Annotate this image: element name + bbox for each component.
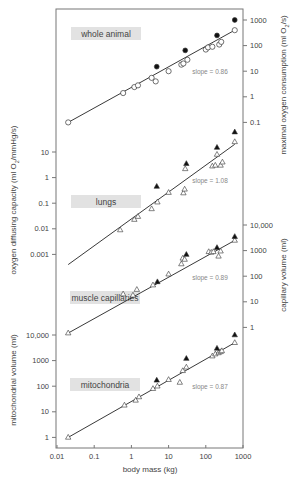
lungs-filled-point <box>184 161 189 166</box>
lungs-y-tick-label: 0.01 <box>34 224 49 233</box>
whole-animal-filled-point <box>154 64 159 69</box>
muscle-capillaries-filled-point <box>214 245 219 250</box>
whole-animal-open-point <box>121 90 126 95</box>
whole-animal-open-point <box>219 39 224 44</box>
mitochondria-panel-label: mitochondria <box>81 380 130 390</box>
muscle-capillaries-open-point <box>179 261 184 266</box>
muscle-capillaries-y-tick-label: 10,000 <box>250 221 273 230</box>
mitochondria-y-tick-label: 1 <box>45 433 49 442</box>
whole-animal-open-point <box>232 28 237 33</box>
whole-animal-y-tick-label: 10 <box>250 67 258 76</box>
whole-animal-y-tick-label: 1000 <box>250 16 267 25</box>
muscle-capillaries-panel-label: muscle capillaries <box>71 293 138 303</box>
muscle-capillaries-open-point <box>166 271 171 276</box>
muscle-capillaries-y-tick-label: 10 <box>250 297 258 306</box>
x-axis-label: body mass (kg) <box>123 465 178 474</box>
muscle-capillaries-filled-point <box>232 234 237 239</box>
whole-animal-open-point <box>185 57 190 62</box>
mitochondria-filled-point <box>232 332 237 337</box>
whole-animal-open-point <box>66 120 71 125</box>
whole-animal-open-point <box>166 69 171 74</box>
mitochondria-y-tick-label: 10 <box>41 407 49 416</box>
x-tick-label: 100 <box>200 452 213 461</box>
lungs-open-point <box>149 206 154 211</box>
lungs-open-point <box>214 151 219 156</box>
lungs-open-point <box>220 159 225 164</box>
mitochondria-y-axis-label: mitochondrial volume (ml) <box>9 334 18 426</box>
mitochondria-open-point <box>184 364 189 369</box>
muscle-capillaries-y-tick-label: 100 <box>250 272 263 281</box>
whole-animal-panel-label: whole animal <box>80 29 131 39</box>
lungs-filled-point <box>154 183 159 188</box>
lungs-y-axis-label: oxygen diffusing capacity (ml O2/mmHg/s) <box>9 125 20 274</box>
lungs-filled-point <box>214 144 219 149</box>
muscle-capillaries-open-point <box>216 253 221 258</box>
mitochondria-open-point <box>177 379 182 384</box>
mitochondria-y-tick-label: 10,000 <box>26 331 49 340</box>
muscle-capillaries-y-tick-label: 1 <box>250 323 254 332</box>
muscle-capillaries-filled-point <box>184 252 189 257</box>
lungs-slope-label: slope = 1.08 <box>192 177 228 185</box>
whole-animal-filled-point <box>232 18 237 23</box>
whole-animal-open-point <box>153 79 158 84</box>
lungs-panel-label: lungs <box>96 197 116 207</box>
lungs-y-tick-label: 10 <box>41 148 49 157</box>
whole-animal-open-point <box>135 83 140 88</box>
mitochondria-y-tick-label: 1000 <box>32 356 49 365</box>
x-tick-label: 10 <box>164 452 172 461</box>
mitochondria-slope-label: slope = 0.87 <box>192 383 228 391</box>
x-tick-label: 1000 <box>235 452 252 461</box>
muscle-capillaries-open-point <box>134 287 139 292</box>
mitochondria-filled-point <box>184 356 189 361</box>
whole-animal-y-axis-label: maximal oxygen consumption (ml O2/s) <box>279 15 290 154</box>
lungs-open-point <box>232 139 237 144</box>
lungs-open-point <box>182 186 187 191</box>
allometry-chart: 0.010.11101001000body mass (kg)100010010… <box>0 0 299 483</box>
whole-animal-filled-point <box>215 33 220 38</box>
mitochondria-filled-point <box>154 377 159 382</box>
mitochondria-filled-point <box>214 345 219 350</box>
x-tick-label: 0.01 <box>50 452 65 461</box>
whole-animal-filled-point <box>183 48 188 53</box>
lungs-y-tick-label: 0.1 <box>39 199 49 208</box>
whole-animal-y-tick-label: 100 <box>250 41 263 50</box>
muscle-capillaries-filled-point <box>155 279 160 284</box>
mitochondria-open-point <box>232 340 237 345</box>
lungs-filled-point <box>232 129 237 134</box>
muscle-capillaries-y-tick-label: 1000 <box>250 246 267 255</box>
whole-animal-open-point <box>210 44 215 49</box>
x-tick-label: 1 <box>129 452 133 461</box>
whole-animal-y-tick-label: 0.1 <box>250 118 260 127</box>
lungs-open-point <box>118 227 123 232</box>
whole-animal-slope-label: slope = 0.86 <box>192 68 228 76</box>
muscle-capillaries-y-axis-label: capillary volume (ml) <box>279 238 288 312</box>
lungs-y-tick-label: 0.001 <box>30 250 49 259</box>
muscle-capillaries-slope-label: slope = 0.89 <box>192 274 228 282</box>
lungs-open-point <box>183 166 188 171</box>
x-tick-label: 0.1 <box>89 452 99 461</box>
lungs-y-tick-label: 1 <box>45 173 49 182</box>
mitochondria-y-tick-label: 100 <box>36 382 49 391</box>
whole-animal-y-tick-label: 1 <box>250 92 254 101</box>
